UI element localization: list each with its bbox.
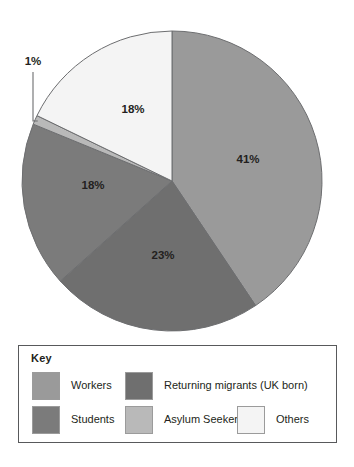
legend-swatch-workers bbox=[32, 372, 60, 400]
legend-label-workers: Workers bbox=[71, 380, 112, 391]
legend-swatch-students bbox=[32, 406, 60, 434]
pie-slice-value-returning-migrants-uk-born: 23% bbox=[151, 249, 174, 261]
pie-slices bbox=[22, 31, 322, 331]
legend-swatch-asylum-seekers bbox=[125, 406, 153, 434]
pie-chart: 41%23%18%18%1% bbox=[0, 0, 354, 340]
legend-item-asylum-seekers[interactable]: Asylum Seekers bbox=[125, 403, 243, 436]
legend-title: Key bbox=[31, 352, 52, 364]
legend-swatch-others bbox=[237, 406, 265, 434]
legend-item-students[interactable]: Students bbox=[32, 403, 114, 436]
legend-item-others[interactable]: Others bbox=[237, 403, 309, 436]
legend-label-others: Others bbox=[276, 414, 309, 425]
pie-callout-value-asylum-seekers: 1% bbox=[25, 55, 42, 67]
legend-label-asylum-seekers: Asylum Seekers bbox=[164, 414, 243, 425]
legend-row: Students Asylum Seekers Others bbox=[19, 403, 336, 436]
pie-slice-value-students: 18% bbox=[81, 179, 104, 191]
legend-item-workers[interactable]: Workers bbox=[32, 369, 112, 402]
callout-leader-line bbox=[33, 72, 38, 121]
pie-slice-value-workers: 41% bbox=[236, 153, 259, 165]
pie-slice-value-others: 18% bbox=[121, 103, 144, 115]
pie-chart-svg: 41%23%18%18%1% bbox=[0, 0, 354, 340]
chart-page: 41%23%18%18%1% Key Workers Returning mig… bbox=[0, 0, 354, 467]
legend-row: Workers Returning migrants (UK born) bbox=[19, 369, 336, 402]
legend-label-students: Students bbox=[71, 414, 114, 425]
legend-box: Key Workers Returning migrants (UK born)… bbox=[18, 345, 337, 443]
legend-swatch-returning-migrants bbox=[125, 372, 153, 400]
legend-item-returning-migrants[interactable]: Returning migrants (UK born) bbox=[125, 369, 308, 402]
legend-label-returning-migrants: Returning migrants (UK born) bbox=[164, 380, 308, 391]
bottom-caption-strip bbox=[0, 452, 354, 467]
